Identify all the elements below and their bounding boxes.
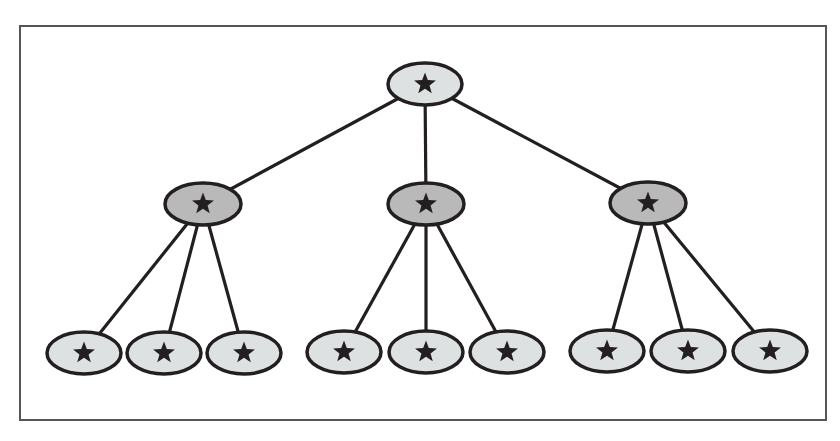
root-node (388, 63, 462, 105)
leaf-node (570, 330, 644, 372)
leaf-node (651, 330, 725, 372)
tree-diagram (0, 0, 840, 441)
tree-edge (203, 84, 425, 204)
leaf-node (307, 331, 381, 373)
level1-node (610, 182, 686, 224)
leaf-node (47, 332, 121, 374)
leaf-node (470, 331, 544, 373)
leaf-node (389, 331, 463, 373)
level1-node (165, 183, 241, 225)
tree-edge (344, 204, 426, 352)
leaf-node (733, 330, 807, 372)
tree-edge (425, 84, 648, 203)
level1-node (388, 183, 464, 225)
leaf-node (127, 332, 201, 374)
tree-edge (648, 203, 770, 351)
leaf-node (207, 332, 281, 374)
tree-edge (426, 204, 507, 352)
